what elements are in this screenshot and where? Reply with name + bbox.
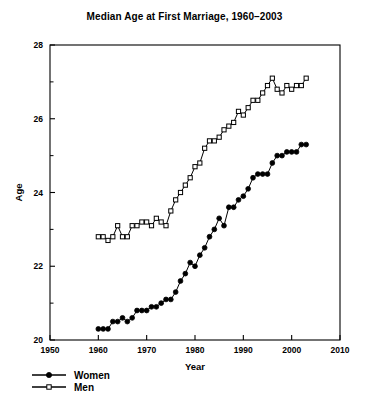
data-point-men (130, 224, 134, 228)
data-point-men (251, 98, 255, 102)
data-point-women (270, 161, 275, 166)
data-point-women (246, 186, 251, 191)
data-point-men (285, 83, 289, 87)
data-point-women (202, 245, 207, 250)
data-point-men (232, 120, 236, 124)
legend-marker-men (47, 385, 51, 389)
data-point-women (120, 315, 125, 320)
data-point-men (125, 235, 129, 239)
data-point-men (174, 198, 178, 202)
data-point-women (168, 297, 173, 302)
data-point-women (280, 153, 285, 158)
y-tick-label: 20 (34, 335, 44, 345)
data-point-men (265, 83, 269, 87)
data-point-women (236, 197, 241, 202)
data-point-women (265, 172, 270, 177)
data-point-men (207, 139, 211, 143)
data-point-men (241, 113, 245, 117)
x-tick-label: 1950 (41, 345, 60, 355)
data-point-men (183, 183, 187, 187)
data-point-men (304, 76, 308, 80)
data-point-men (275, 87, 279, 91)
data-point-women (304, 142, 309, 147)
x-tick-label: 1960 (89, 345, 108, 355)
data-point-men (212, 139, 216, 143)
data-point-men (145, 220, 149, 224)
x-tick-label: 1980 (186, 345, 205, 355)
data-point-men (135, 224, 139, 228)
data-point-men (106, 238, 110, 242)
data-point-men (290, 87, 294, 91)
chart-svg: 20222426281950196019701980199020002010Ye… (0, 0, 369, 409)
x-axis-title: Year (185, 361, 205, 372)
data-point-men (217, 135, 221, 139)
legend-marker-women (46, 372, 51, 377)
data-point-women (289, 150, 294, 155)
data-point-women (299, 142, 304, 147)
data-point-men (140, 220, 144, 224)
data-point-women (260, 172, 265, 177)
y-tick-label: 24 (34, 188, 44, 198)
data-point-women (212, 227, 217, 232)
x-tick-label: 2000 (282, 345, 301, 355)
data-point-men (111, 235, 115, 239)
data-point-women (130, 315, 135, 320)
data-point-women (101, 327, 106, 332)
data-point-men (178, 190, 182, 194)
data-point-men (246, 106, 250, 110)
legend-label-women: Women (74, 370, 110, 381)
data-point-women (284, 150, 289, 155)
data-point-women (294, 150, 299, 155)
data-point-men (164, 224, 168, 228)
y-tick-label: 28 (34, 40, 44, 50)
data-point-women (226, 205, 231, 210)
y-axis-title: Age (13, 184, 24, 202)
data-point-men (188, 176, 192, 180)
data-point-men (154, 216, 158, 220)
data-point-men (198, 161, 202, 165)
data-point-men (222, 128, 226, 132)
data-point-women (144, 308, 149, 313)
data-point-women (139, 308, 144, 313)
data-point-men (227, 124, 231, 128)
data-point-men (294, 83, 298, 87)
data-point-men (193, 165, 197, 169)
data-point-women (255, 172, 260, 177)
data-point-men (261, 91, 265, 95)
data-point-women (188, 260, 193, 265)
legend-label-men: Men (74, 382, 94, 393)
data-point-men (280, 91, 284, 95)
data-point-men (299, 83, 303, 87)
data-point-men (236, 109, 240, 113)
data-point-women (241, 194, 246, 199)
data-point-women (197, 253, 202, 258)
plot-frame (50, 45, 340, 340)
data-point-women (135, 308, 140, 313)
data-point-men (203, 146, 207, 150)
x-tick-label: 2010 (331, 345, 350, 355)
x-tick-label: 1990 (234, 345, 253, 355)
data-point-women (217, 216, 222, 221)
data-point-men (256, 98, 260, 102)
data-point-women (96, 327, 101, 332)
data-point-men (270, 76, 274, 80)
data-point-women (164, 297, 169, 302)
data-point-men (159, 220, 163, 224)
x-tick-label: 1970 (137, 345, 156, 355)
data-point-women (251, 175, 256, 180)
chart-figure: Median Age at First Marriage, 1960–2003 … (0, 0, 369, 409)
data-point-women (106, 327, 111, 332)
data-point-women (207, 234, 212, 239)
data-point-women (222, 223, 227, 228)
y-tick-label: 26 (34, 114, 44, 124)
data-point-women (149, 304, 154, 309)
data-point-men (101, 235, 105, 239)
data-point-men (169, 209, 173, 213)
data-point-women (193, 264, 198, 269)
data-point-men (120, 235, 124, 239)
data-point-women (275, 153, 280, 158)
data-point-women (173, 290, 178, 295)
data-point-women (125, 319, 130, 324)
data-point-men (116, 224, 120, 228)
data-point-women (178, 279, 183, 284)
